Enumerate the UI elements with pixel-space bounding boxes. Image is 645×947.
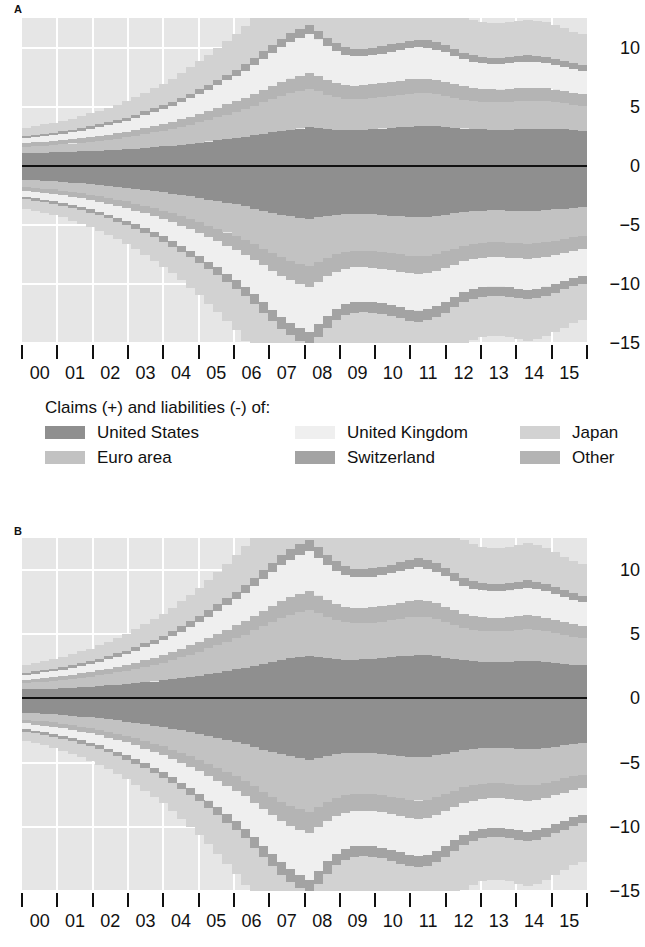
plot-canvas-a xyxy=(22,18,587,343)
bar-segment xyxy=(578,638,587,665)
chart-panel-b: B 1050−5−10−15 0001020304050607080910111… xyxy=(0,520,645,947)
x-axis-tick-label: 00 xyxy=(30,910,50,932)
y-axis-tick-label: 0 xyxy=(592,689,640,707)
x-axis-tick xyxy=(515,345,517,359)
x-axis-tick xyxy=(127,345,129,359)
x-axis-tick xyxy=(409,893,411,907)
x-axis-tick xyxy=(56,893,58,907)
bar-segment xyxy=(578,788,587,815)
y-axis-tick-label: 5 xyxy=(592,625,640,643)
x-axis-tick-label: 05 xyxy=(206,362,226,384)
legend-label: Japan xyxy=(572,422,618,443)
x-axis-tick xyxy=(198,345,200,359)
y-axis-labels-b: 1050−5−10−15 xyxy=(592,538,644,891)
x-axis-tick-label: 09 xyxy=(347,362,367,384)
x-axis-tick-label: 14 xyxy=(524,910,544,932)
y-axis-tick-label: −15 xyxy=(592,334,640,352)
bar-segment xyxy=(578,564,587,596)
x-axis-tick xyxy=(92,893,94,907)
legend-swatch-icon xyxy=(295,451,335,464)
x-axis-labels-a: 00010203040506070809101112131415 xyxy=(22,362,587,388)
bar-segment xyxy=(578,665,587,698)
bar-segment xyxy=(578,249,587,275)
figure-root: A 1050−5−10−15 0001020304050607080910111… xyxy=(0,0,645,947)
x-axis-tick-label: 07 xyxy=(277,362,297,384)
y-axis-tick-label: −10 xyxy=(592,818,640,836)
x-axis-tick-label: 05 xyxy=(206,910,226,932)
y-axis-labels-a: 1050−5−10−15 xyxy=(592,18,644,343)
x-axis-tick-label: 14 xyxy=(524,362,544,384)
x-axis-tick xyxy=(233,345,235,359)
bar-column xyxy=(578,18,587,343)
bar-segment xyxy=(578,207,587,236)
y-axis-tick-label: −15 xyxy=(592,882,640,900)
x-axis-tick xyxy=(21,345,23,359)
x-axis-tick-label: 10 xyxy=(383,362,403,384)
x-axis-tick-label: 13 xyxy=(489,910,509,932)
bar-segment xyxy=(578,106,587,131)
bar-segment xyxy=(578,94,587,106)
bar-segment xyxy=(578,236,587,249)
x-axis-tick xyxy=(551,893,553,907)
x-axis-tick xyxy=(304,893,306,907)
x-axis-tick xyxy=(304,345,306,359)
plot-area-b xyxy=(22,538,587,891)
legend-title: Claims (+) and liabilities (-) of: xyxy=(45,398,270,418)
y-axis-tick-label: −10 xyxy=(592,275,640,293)
x-axis-tick xyxy=(339,893,341,907)
x-axis-tick xyxy=(480,345,482,359)
bar-segment xyxy=(578,698,587,743)
x-axis-tick xyxy=(374,345,376,359)
x-axis-tick-label: 03 xyxy=(136,362,156,384)
x-axis-tick xyxy=(586,345,588,359)
x-axis-tick-label: 07 xyxy=(277,910,297,932)
legend-label: United Kingdom xyxy=(347,422,468,443)
y-axis-tick-label: 0 xyxy=(592,157,640,175)
zero-axis-line xyxy=(22,165,587,167)
legend-label: United States xyxy=(97,422,199,443)
y-axis-tick-label: −5 xyxy=(592,216,640,234)
legend-label: Euro area xyxy=(97,447,172,468)
x-axis-tick-label: 15 xyxy=(559,910,579,932)
x-axis-tick-label: 00 xyxy=(30,362,50,384)
x-axis-tick-label: 11 xyxy=(419,362,438,384)
x-axis-tick-label: 06 xyxy=(242,910,262,932)
plot-area-a xyxy=(22,18,587,343)
panel-label-b: B xyxy=(14,526,22,537)
bar-segment xyxy=(578,743,587,774)
x-axis-tick-label: 12 xyxy=(453,910,473,932)
bar-segment xyxy=(578,823,587,861)
x-axis-tick-label: 08 xyxy=(312,362,332,384)
x-axis-tick-label: 02 xyxy=(100,910,120,932)
bar-segment xyxy=(578,131,587,166)
bar-series-group xyxy=(22,538,587,891)
x-axis-tick-label: 01 xyxy=(65,910,85,932)
bar-column xyxy=(578,538,587,891)
x-axis-tick xyxy=(551,345,553,359)
x-axis-tick-label: 04 xyxy=(171,910,191,932)
y-axis-tick-label: −5 xyxy=(592,754,640,772)
x-axis-tick xyxy=(268,893,270,907)
x-axis-tick xyxy=(409,345,411,359)
legend-swatch-icon xyxy=(520,426,560,439)
bar-segment xyxy=(578,602,587,626)
x-axis-tick-label: 03 xyxy=(136,910,156,932)
legend-swatch-icon xyxy=(45,426,85,439)
x-axis-tick xyxy=(374,893,376,907)
x-axis-tick xyxy=(21,893,23,907)
x-axis-tick-label: 09 xyxy=(347,910,367,932)
x-axis-tick xyxy=(586,893,588,907)
x-axis-tick-label: 02 xyxy=(100,362,120,384)
zero-axis-line xyxy=(22,697,587,699)
chart-panel-a: A 1050−5−10−15 0001020304050607080910111… xyxy=(0,0,645,396)
x-axis-tick xyxy=(233,893,235,907)
legend-swatch-icon xyxy=(520,451,560,464)
bar-segment xyxy=(578,596,587,603)
x-axis-tick-label: 01 xyxy=(65,362,85,384)
x-axis-labels-b: 00010203040506070809101112131415 xyxy=(22,910,587,936)
legend-swatch-icon xyxy=(45,451,85,464)
bar-segment xyxy=(578,815,587,823)
x-axis-tick xyxy=(268,345,270,359)
x-axis-tick-label: 08 xyxy=(312,910,332,932)
x-axis-tick xyxy=(339,345,341,359)
